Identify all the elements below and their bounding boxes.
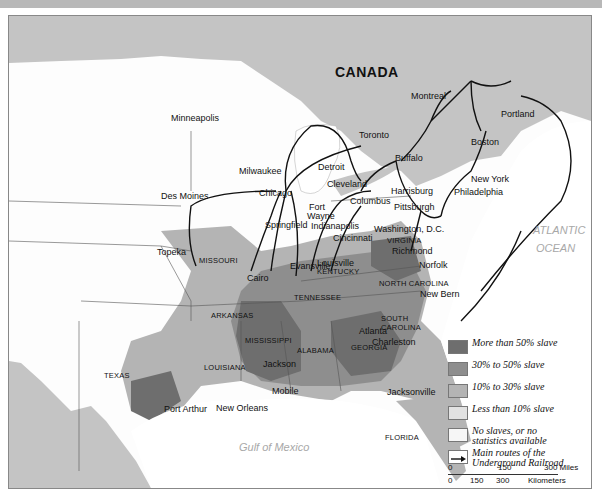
city-philadelphia: Philadelphia [454,187,503,197]
city-washington: Washington, D.C. [374,224,444,234]
city-jackson: Jackson [263,359,296,369]
scale-mile-0: 0 [448,463,452,472]
city-new-bern: New Bern [420,289,460,299]
state-missouri: MISSOURI [199,256,238,265]
legend-item-no-slaves: No slaves, or nostatistics available [448,425,588,447]
state-mississippi: MISSISSIPPI [245,336,292,345]
scale-mile-300: 300 Miles [544,463,578,472]
city-des-moines: Des Moines [161,191,209,201]
state-north-carolina: NORTH CAROLINA [379,279,449,288]
city-boston: Boston [471,137,499,147]
city-detroit: Detroit [318,162,345,172]
state-louisiana: LOUISIANA [204,363,246,372]
legend-label: Less than 10% slave [472,404,554,414]
legend-item-10-to-30: 10% to 30% slave [448,381,588,403]
scale-km-150: 150 [470,476,483,485]
canada-label: CANADA [335,64,399,80]
scale-line [448,474,558,475]
swatch-icon [448,406,468,420]
state-south-carolina-1: SOUTH [381,314,408,323]
state-arkansas: ARKANSAS [211,311,253,320]
scale-km: 0 150 300 Kilometers [448,476,583,486]
scale-km-300: 300 [496,476,509,485]
city-jacksonville: Jacksonville [387,387,436,397]
city-minneapolis: Minneapolis [171,113,219,123]
top-image-strip [0,0,602,8]
city-cincinnati: Cincinnati [333,233,373,243]
state-texas: TEXAS [104,371,130,380]
swatch-icon [448,362,468,376]
city-harrisburg: Harrisburg [391,186,433,196]
state-florida: FLORIDA [385,433,419,442]
city-indianapolis: Indianapolis [311,221,359,231]
state-virginia: VIRGINIA [387,236,422,245]
atlantic-label-1: ATLANTIC [533,224,585,236]
city-toronto: Toronto [359,130,389,140]
city-norfolk: Norfolk [419,260,448,270]
legend-label: 30% to 50% slave [472,360,545,370]
city-portland: Portland [501,109,535,119]
city-springfield: Springfield [265,220,308,230]
city-columbus: Columbus [350,196,391,206]
city-charleston: Charleston [372,337,416,347]
city-atlanta: Atlanta [359,326,387,336]
legend-item-more-than-50: More than 50% slave [448,337,588,359]
city-montreal: Montreal [411,91,446,101]
city-mobile: Mobile [272,386,299,396]
scale-km-0: 0 [448,476,452,485]
legend-label: More than 50% slave [472,338,557,348]
city-new-orleans: New Orleans [216,403,268,413]
city-wayne: Wayne [307,211,335,221]
city-topeka: Topeka [157,247,186,257]
city-pittsburgh: Pittsburgh [394,202,435,212]
scale-bar: 0 150 300 Miles 0 150 300 Kilometers [448,463,583,486]
city-port-arthur: Port Arthur [164,404,207,414]
city-new-york: New York [471,174,509,184]
map-legend: More than 50% slave 30% to 50% slave 10%… [448,337,588,471]
scale-km-label: Kilometers [528,476,566,485]
city-chicago: Chicago [259,188,292,198]
city-milwaukee: Milwaukee [239,166,282,176]
legend-item-30-to-50: 30% to 50% slave [448,359,588,381]
swatch-icon [448,384,468,398]
city-richmond: Richmond [392,246,433,256]
legend-label: No slaves, or nostatistics available [472,426,547,446]
swatch-icon [448,428,468,442]
city-buffalo: Buffalo [395,153,423,163]
city-cairo: Cairo [247,273,269,283]
city-evansville: Evansville [290,261,331,271]
legend-item-less-than-10: Less than 10% slave [448,403,588,425]
gulf-label: Gulf of Mexico [239,441,309,453]
legend-label: 10% to 30% slave [472,382,545,392]
scale-mile-150: 150 [498,463,511,472]
route-arrow-icon [448,450,468,464]
swatch-icon [448,340,468,354]
state-tennessee: TENNESSEE [294,293,341,302]
city-cleveland: Cleveland [327,179,367,189]
scale-miles: 0 150 300 Miles [448,463,583,473]
state-alabama: ALABAMA [297,346,334,355]
atlantic-label-2: OCEAN [536,242,575,254]
